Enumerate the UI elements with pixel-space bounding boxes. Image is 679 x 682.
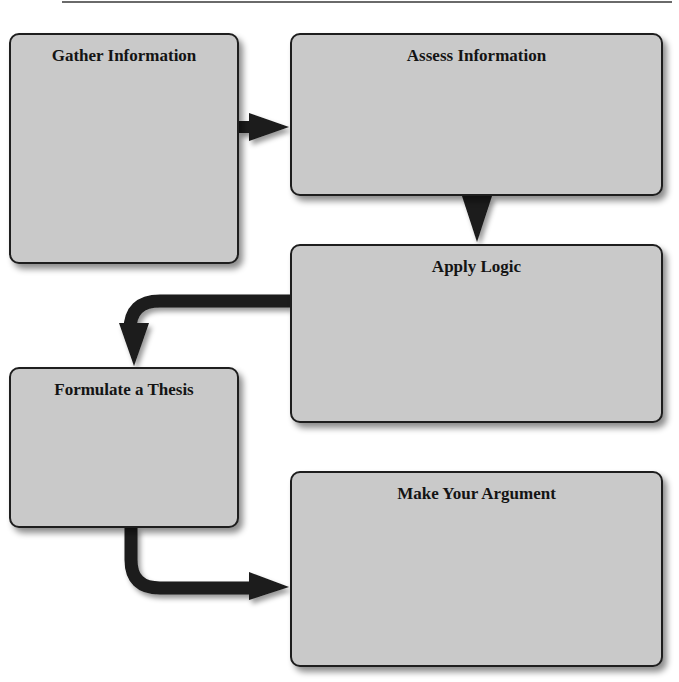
step-assess-information: Assess Information — [290, 33, 663, 196]
step-make-argument: Make Your Argument — [290, 471, 663, 667]
step-title: Apply Logic — [292, 257, 661, 277]
step-title: Formulate a Thesis — [11, 380, 237, 400]
step-apply-logic: Apply Logic — [290, 244, 663, 423]
arrow-assess-to-apply — [462, 196, 492, 242]
arrow-thesis-to-argue — [131, 527, 289, 600]
step-title: Gather Information — [11, 46, 237, 66]
arrow-gather-to-assess — [238, 113, 289, 141]
cut-off-header-label — [0, 0, 58, 2]
step-title: Assess Information — [292, 46, 661, 66]
arrow-apply-to-thesis — [119, 301, 290, 366]
step-formulate-thesis: Formulate a Thesis — [9, 367, 239, 528]
header-rule-line — [62, 1, 672, 3]
step-title: Make Your Argument — [292, 484, 661, 504]
step-gather-information: Gather Information — [9, 33, 239, 264]
